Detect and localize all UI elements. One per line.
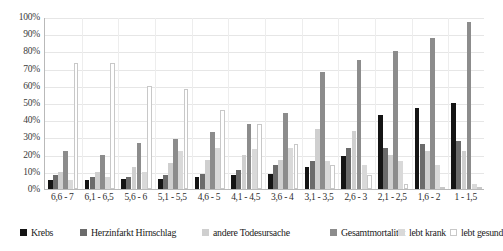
- bar: [231, 175, 236, 189]
- category-separator: [118, 18, 119, 189]
- x-axis-tick-label: 2,6 - 3: [337, 192, 374, 202]
- bar: [142, 172, 147, 189]
- legend-item[interactable]: Herzinfarkt Hirnschlag: [80, 227, 176, 238]
- legend-swatch-icon: [398, 229, 405, 236]
- bar: [357, 60, 362, 189]
- bar: [378, 115, 383, 189]
- bar: [205, 160, 210, 189]
- bar: [305, 167, 310, 189]
- x-axis-tick-label: 4,1 - 4,5: [227, 192, 264, 202]
- legend-label: Herzinfarkt Hirnschlag: [91, 227, 176, 238]
- y-axis-tick-label: 40%: [0, 115, 40, 125]
- bar: [105, 177, 110, 189]
- bar: [341, 156, 346, 189]
- bar: [252, 149, 257, 189]
- legend-swatch-icon: [202, 229, 209, 236]
- bar: [294, 144, 299, 189]
- category-separator: [192, 18, 193, 189]
- legend-item[interactable]: lebt krank: [398, 227, 446, 238]
- bar: [257, 124, 262, 189]
- bar: [346, 148, 351, 189]
- bar: [367, 175, 372, 189]
- bar: [158, 179, 163, 189]
- category-separator: [448, 18, 449, 189]
- bar: [425, 151, 430, 189]
- bar: [90, 177, 95, 189]
- bar: [163, 175, 168, 189]
- bar: [278, 160, 283, 189]
- legend-item[interactable]: lebt gesund: [450, 227, 503, 238]
- bar: [310, 161, 315, 189]
- bar: [110, 63, 115, 189]
- category-separator: [265, 18, 266, 189]
- category-separator: [228, 18, 229, 189]
- legend-swatch-icon: [80, 229, 87, 236]
- bar: [195, 177, 200, 189]
- bar: [415, 108, 420, 189]
- bar: [462, 151, 467, 189]
- legend-label: lebt gesund: [461, 227, 503, 238]
- bar: [215, 148, 220, 189]
- bar: [273, 165, 278, 189]
- bar: [121, 179, 126, 189]
- bar: [451, 103, 456, 189]
- bar: [58, 172, 63, 189]
- category-separator: [412, 18, 413, 189]
- legend-item[interactable]: andere Todesursache: [202, 227, 290, 238]
- bar: [53, 175, 58, 189]
- y-axis-tick-label: 20%: [0, 150, 40, 160]
- bar: [435, 165, 440, 189]
- legend-item[interactable]: Krebs: [20, 227, 53, 238]
- y-axis-tick-label: 80%: [0, 46, 40, 56]
- category-separator: [82, 18, 83, 189]
- bar: [477, 187, 482, 189]
- bar: [236, 170, 241, 189]
- y-axis-tick-label: 0%: [0, 184, 40, 194]
- bar: [247, 124, 252, 189]
- bar: [147, 86, 152, 189]
- x-axis-tick-label: 1 - 1,5: [447, 192, 484, 202]
- bar: [456, 141, 461, 189]
- bar: [315, 129, 320, 189]
- bar: [137, 143, 142, 189]
- bar: [288, 148, 293, 189]
- x-axis-tick-label: 5,1 - 5,5: [154, 192, 191, 202]
- bar: [242, 155, 247, 189]
- bar: [467, 22, 472, 189]
- legend-swatch-icon: [330, 229, 337, 236]
- bar: [404, 184, 409, 189]
- y-axis-tick-label: 30%: [0, 132, 40, 142]
- bar: [126, 177, 131, 189]
- bar: [325, 161, 330, 189]
- y-axis-tick-label: 90%: [0, 29, 40, 39]
- bar: [398, 161, 403, 189]
- bar: [330, 165, 335, 189]
- x-axis-tick-label: 1,6 - 2: [411, 192, 448, 202]
- bar: [85, 180, 90, 189]
- bar: [283, 113, 288, 189]
- bar: [352, 131, 357, 189]
- bar: [320, 72, 325, 189]
- y-axis-tick-label: 60%: [0, 81, 40, 91]
- legend-label: Gesamtmortalität: [341, 227, 405, 238]
- bar: [168, 163, 173, 189]
- bar: [388, 155, 393, 189]
- bar: [173, 139, 178, 189]
- bar: [100, 155, 105, 189]
- bar: [210, 132, 215, 189]
- x-axis-tick-label: 2,1 - 2,5: [374, 192, 411, 202]
- legend-item[interactable]: Gesamtmortalität: [330, 227, 405, 238]
- bar: [440, 187, 445, 189]
- bar: [48, 180, 53, 189]
- category-separator: [375, 18, 376, 189]
- x-axis-tick-label: 6,6 - 7: [44, 192, 81, 202]
- plot-area: [44, 18, 484, 190]
- category-separator: [338, 18, 339, 189]
- legend-label: andere Todesursache: [213, 227, 290, 238]
- legend-label: lebt krank: [409, 227, 446, 238]
- bar: [63, 151, 68, 189]
- bar: [420, 144, 425, 189]
- bar: [74, 63, 79, 189]
- bar: [220, 110, 225, 189]
